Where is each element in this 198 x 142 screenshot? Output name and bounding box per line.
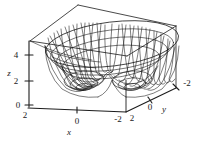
- x-axis-title: x: [66, 127, 71, 137]
- z-tick-label-4: 4: [14, 50, 19, 60]
- z-tick-label-0: 0: [16, 100, 21, 110]
- y-axis-title: y: [161, 104, 166, 114]
- figure-container: 4 2 0 z 2 0 -2 x 2 0 -2 y: [0, 0, 198, 142]
- x-tick-label-2: 2: [23, 110, 28, 120]
- z-axis-title: z: [6, 68, 11, 78]
- surface-plot-svg: 4 2 0 z 2 0 -2 x 2 0 -2 y: [0, 0, 198, 142]
- y-tick-label-neg2: -2: [183, 78, 191, 88]
- x-tick-label-neg2: -2: [114, 114, 122, 124]
- y-tick-label-0: 0: [148, 102, 153, 112]
- x-tick-label-0: 0: [75, 116, 80, 126]
- y-tick-label-2: 2: [130, 113, 135, 123]
- z-tick-label-2: 2: [14, 76, 19, 86]
